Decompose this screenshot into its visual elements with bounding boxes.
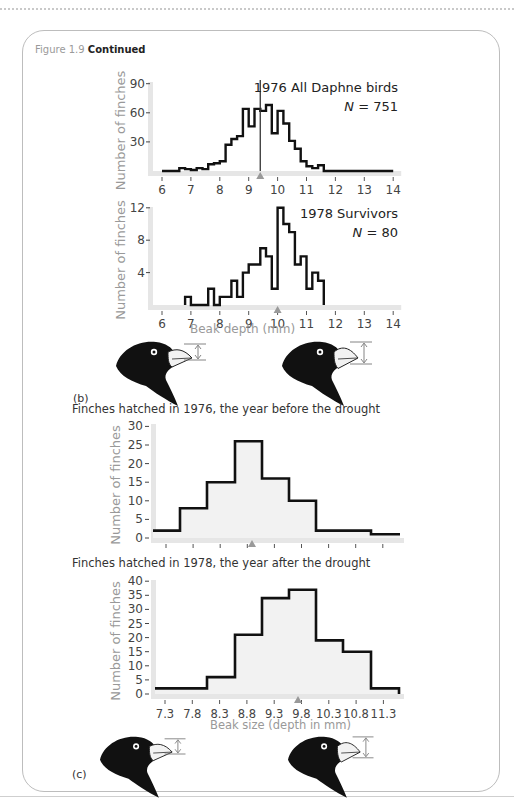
svg-text:Number of finches: Number of finches xyxy=(113,200,128,320)
svg-text:8: 8 xyxy=(216,183,224,197)
histogram-hatched-1978: 05101520253035407.37.88.38.89.39.810.310… xyxy=(108,574,404,721)
svg-text:12: 12 xyxy=(328,317,343,331)
svg-text:1976 All Daphne birds: 1976 All Daphne birds xyxy=(254,80,399,95)
svg-text:15: 15 xyxy=(128,645,143,659)
panel-b-xlabel: Beak depth (mm) xyxy=(190,322,295,336)
svg-text:14: 14 xyxy=(386,317,401,331)
svg-text:30: 30 xyxy=(128,602,143,616)
svg-text:Number of finches: Number of finches xyxy=(108,425,123,545)
svg-text:7.8: 7.8 xyxy=(183,707,201,721)
svg-text:25: 25 xyxy=(128,617,143,631)
svg-text:8: 8 xyxy=(137,233,145,247)
finch-head-large-beak-b xyxy=(282,342,372,406)
svg-text:12: 12 xyxy=(130,201,145,215)
finch-head-small-beak-b xyxy=(116,342,206,406)
svg-text:30: 30 xyxy=(128,419,143,433)
svg-text:10: 10 xyxy=(270,183,285,197)
svg-text:10: 10 xyxy=(128,659,143,673)
svg-text:12: 12 xyxy=(328,183,343,197)
svg-text:11: 11 xyxy=(299,317,314,331)
svg-text:N = 80: N = 80 xyxy=(353,225,398,240)
histogram-1976-all-daphne: 30609067891011121314Number of finches197… xyxy=(113,70,401,197)
svg-text:60: 60 xyxy=(130,106,145,120)
svg-text:7: 7 xyxy=(187,183,195,197)
finch-head-large-beak-c xyxy=(288,737,374,798)
panel-c-label: (c) xyxy=(72,768,87,781)
svg-text:10: 10 xyxy=(128,494,143,508)
svg-text:20: 20 xyxy=(128,631,143,645)
svg-text:4: 4 xyxy=(137,266,145,280)
svg-text:6: 6 xyxy=(158,183,166,197)
histogram-hatched-1976: 051015202530Number of finches xyxy=(108,419,404,548)
panel-c-subtitle-1976: Finches hatched in 1976, the year before… xyxy=(72,402,380,416)
svg-text:9: 9 xyxy=(245,183,253,197)
svg-text:15: 15 xyxy=(128,475,143,489)
svg-text:6: 6 xyxy=(158,317,166,331)
svg-text:11: 11 xyxy=(299,183,314,197)
svg-text:11.3: 11.3 xyxy=(371,707,397,721)
svg-text:90: 90 xyxy=(130,77,145,91)
svg-text:40: 40 xyxy=(128,574,143,588)
svg-text:7.3: 7.3 xyxy=(156,707,174,721)
svg-text:Number of finches: Number of finches xyxy=(113,70,128,190)
svg-text:13: 13 xyxy=(357,317,372,331)
panel-c-xlabel: Beak size (depth in mm) xyxy=(210,718,351,732)
svg-text:0: 0 xyxy=(135,531,143,545)
svg-text:14: 14 xyxy=(386,183,401,197)
svg-text:5: 5 xyxy=(135,512,143,526)
svg-text:35: 35 xyxy=(128,588,143,602)
svg-text:5: 5 xyxy=(135,673,143,687)
svg-text:Number of finches: Number of finches xyxy=(108,581,123,701)
finch-head-small-beak-c xyxy=(100,737,186,798)
svg-text:20: 20 xyxy=(128,457,143,471)
panel-c-subtitle-1978: Finches hatched in 1978, the year after … xyxy=(72,556,370,570)
svg-text:0: 0 xyxy=(135,687,143,701)
svg-text:N = 751: N = 751 xyxy=(344,99,398,114)
svg-text:25: 25 xyxy=(128,438,143,452)
svg-text:13: 13 xyxy=(357,183,372,197)
histogram-1978-survivors: 481267891011121314Number of finches1978 … xyxy=(113,200,401,331)
svg-text:1978 Survivors: 1978 Survivors xyxy=(300,206,398,221)
svg-text:30: 30 xyxy=(130,135,145,149)
